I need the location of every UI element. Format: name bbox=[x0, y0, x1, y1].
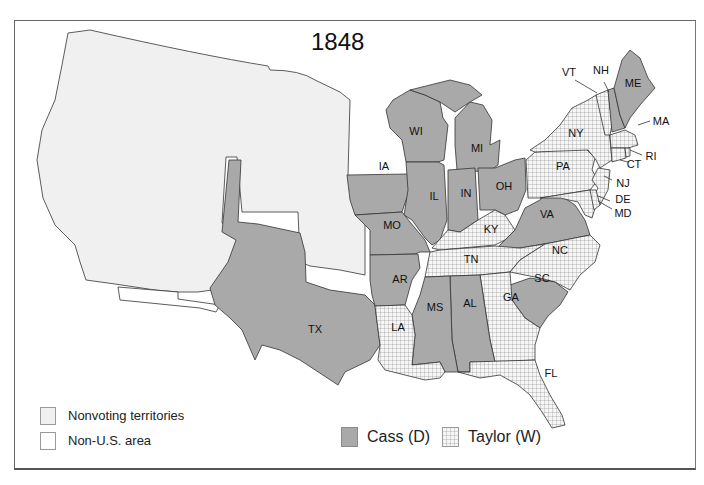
label-OH: OH bbox=[496, 180, 513, 192]
label-TN: TN bbox=[464, 253, 479, 265]
state-CT bbox=[611, 148, 626, 162]
label-FL: FL bbox=[545, 367, 558, 379]
map-title: 1848 bbox=[311, 28, 364, 56]
state-MI bbox=[455, 102, 500, 172]
label-MO: MO bbox=[383, 219, 401, 231]
label-GA: GA bbox=[503, 291, 520, 303]
legend-label-non-us: Non-U.S. area bbox=[68, 433, 151, 448]
territory-west bbox=[37, 30, 365, 292]
legend-territories: Nonvoting territories Non-U.S. area bbox=[40, 405, 184, 455]
legend-candidates: Cass (D) Taylor (W) bbox=[341, 427, 553, 447]
label-DE: DE bbox=[615, 193, 630, 205]
legend-label-nonvoting: Nonvoting territories bbox=[68, 408, 184, 423]
state-ME bbox=[614, 50, 655, 128]
label-ME: ME bbox=[625, 77, 642, 89]
state-IA bbox=[347, 174, 412, 215]
label-MS: MS bbox=[427, 301, 444, 313]
legend-label-taylor: Taylor (W) bbox=[468, 428, 541, 446]
label-VT: VT bbox=[562, 66, 576, 78]
label-NH: NH bbox=[593, 64, 609, 76]
state-MA bbox=[610, 130, 638, 148]
label-TX: TX bbox=[308, 323, 323, 335]
label-CT: CT bbox=[627, 158, 642, 170]
legend-label-cass: Cass (D) bbox=[367, 428, 430, 446]
label-IL: IL bbox=[429, 190, 438, 202]
label-MA: MA bbox=[653, 115, 670, 127]
nonvoting-swatch bbox=[40, 407, 56, 425]
label-NJ: NJ bbox=[616, 177, 629, 189]
state-RI bbox=[625, 148, 630, 157]
label-VA: VA bbox=[540, 208, 555, 220]
label-NC: NC bbox=[552, 244, 568, 256]
label-PA: PA bbox=[556, 160, 571, 172]
label-AL: AL bbox=[463, 297, 476, 309]
legend-item-non-us: Non-U.S. area bbox=[40, 430, 184, 451]
label-RI: RI bbox=[646, 150, 657, 162]
non-us-swatch bbox=[40, 432, 56, 450]
label-NY: NY bbox=[568, 127, 584, 139]
cass-swatch bbox=[341, 427, 358, 447]
label-IN: IN bbox=[461, 187, 472, 199]
state-IN bbox=[448, 168, 478, 232]
label-IA: IA bbox=[379, 160, 390, 172]
legend-item-nonvoting: Nonvoting territories bbox=[40, 405, 184, 426]
label-WI: WI bbox=[409, 125, 422, 137]
label-AR: AR bbox=[392, 273, 407, 285]
label-MD: MD bbox=[614, 207, 631, 219]
label-KY: KY bbox=[484, 223, 499, 235]
label-MI: MI bbox=[471, 142, 483, 154]
label-SC: SC bbox=[534, 272, 549, 284]
label-LA: LA bbox=[391, 321, 405, 333]
taylor-swatch bbox=[442, 427, 459, 447]
